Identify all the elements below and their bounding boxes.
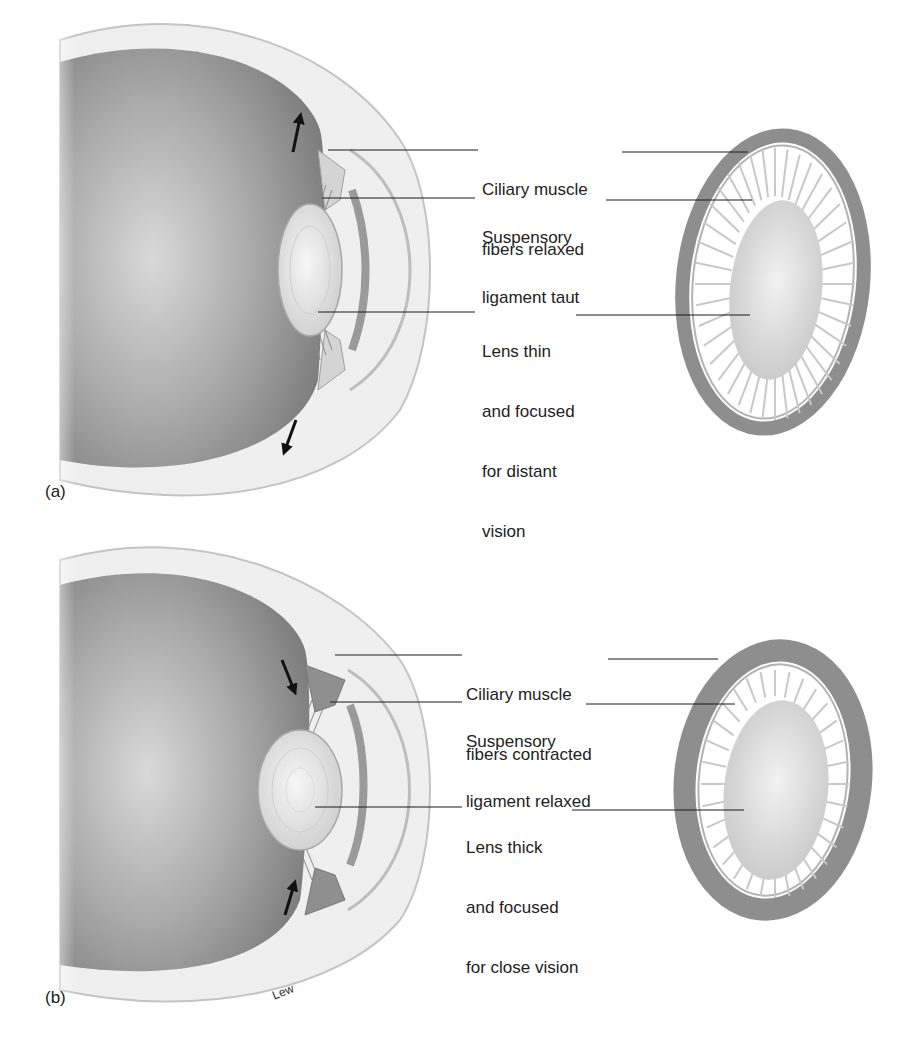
label-suspensory-b-line1: Suspensory [466,732,591,752]
suspensory-spoke [761,672,766,698]
label-lens-a-line2: and focused [482,402,575,422]
suspensory-spoke [811,204,840,232]
lens-a [278,204,342,336]
label-lens-b: Lens thick and focused for close vision [466,798,578,998]
label-lens-b-line3: for close vision [466,958,578,978]
suspensory-spoke [782,150,788,197]
suspensory-spoke [803,689,816,711]
panel-b [40,547,874,1010]
suspensory-spoke [734,689,747,711]
lens-ring-view-a [668,126,878,437]
suspensory-spoke [704,324,736,346]
suspensory-spoke [750,155,761,201]
label-lens-a-line1: Lens thin [482,342,575,362]
suspensory-spoke [811,336,840,364]
label-lens-a-line4: vision [482,522,575,542]
suspensory-spoke [817,242,851,257]
suspensory-spoke [696,298,732,306]
panel-letter-a: (a) [45,482,66,502]
suspensory-spoke [782,371,788,418]
accommodation-diagram [0,0,924,1052]
label-lens-b-line2: and focused [466,898,578,918]
eye-cross-section-b [40,547,430,1010]
label-lens-b-line1: Lens thick [466,838,578,858]
panel-a [40,24,878,500]
suspensory-spoke [707,740,729,750]
suspensory-spoke [699,311,733,326]
suspensory-spoke [814,222,846,244]
suspensory-spoke [704,222,736,244]
suspensory-spoke [817,311,851,326]
suspensory-spoke [789,368,800,414]
suspensory-spoke [818,263,854,271]
label-suspensory-a-line1: Suspensory [482,228,579,248]
suspensory-spoke [723,703,740,721]
suspensory-spoke [696,263,732,271]
suspensory-spoke [702,801,726,806]
suspensory-spoke [710,204,739,232]
suspensory-spoke [713,721,733,735]
suspensory-spoke [702,762,726,767]
label-lens-a: Lens thin and focused for distant vision [482,302,575,562]
suspensory-spoke [794,679,803,703]
suspensory-spoke [789,155,800,201]
suspensory-spoke [699,242,733,257]
suspensory-spoke [810,703,827,721]
suspensory-spoke [747,679,756,703]
suspensory-spoke [818,298,854,306]
lens-ring-view-b [672,642,874,919]
eye-cross-section-a [40,24,430,500]
panel-letter-b: (b) [45,988,66,1008]
suspensory-spoke [762,150,768,197]
label-lens-a-line3: for distant [482,462,575,482]
suspensory-spoke [814,324,846,346]
suspensory-spoke [785,672,790,698]
